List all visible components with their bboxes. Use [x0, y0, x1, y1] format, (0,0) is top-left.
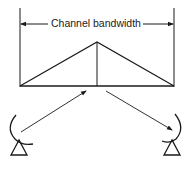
right-dish-antenna-icon: [162, 114, 181, 155]
uplink-arrow: [21, 91, 86, 132]
downlink-arrow: [106, 91, 172, 130]
channel-bandwidth-label: Channel bandwidth: [49, 17, 143, 30]
left-dish-antenna-icon: [10, 115, 33, 155]
